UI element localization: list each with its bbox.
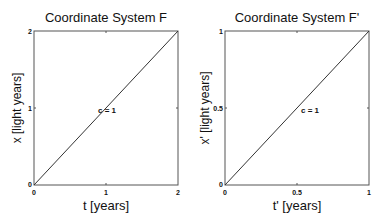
- figure: Coordinate System F c = 1 2 1 0 0 1 2 t …: [0, 0, 382, 224]
- plot-left-annotation: c = 1: [98, 106, 117, 115]
- y-tick-label: 0: [28, 181, 32, 188]
- plot-right-title: Coordinate System F': [235, 10, 360, 25]
- x-tick-label: 0: [32, 189, 36, 196]
- x-tick-label: 2: [176, 189, 180, 196]
- plot-right-xlabel: t' [years]: [273, 198, 322, 213]
- x-tick-label: 1: [367, 189, 371, 196]
- plot-left: Coordinate System F c = 1 2 1 0 0 1 2 t …: [10, 10, 180, 213]
- plot-right: Coordinate System F' c = 1 1 0.5 0 0 0.5…: [198, 10, 371, 213]
- y-tick-label: 2: [28, 28, 32, 35]
- plot-left-ylabel: x [light years]: [10, 73, 24, 144]
- x-tick-label: 0.5: [292, 189, 302, 196]
- plot-right-annotation: c = 1: [301, 106, 320, 115]
- y-tick-label: 1: [219, 28, 223, 35]
- x-tick-label: 1: [104, 189, 108, 196]
- plot-left-title: Coordinate System F: [45, 10, 167, 25]
- plot-right-ylabel: x' [light years]: [198, 72, 212, 145]
- y-tick-label: 0.5: [213, 105, 223, 112]
- y-tick-label: 1: [28, 105, 32, 112]
- plot-right-light-line: [225, 31, 369, 185]
- y-tick-label: 0: [219, 181, 223, 188]
- plot-left-xlabel: t [years]: [83, 198, 129, 213]
- x-tick-label: 0: [223, 189, 227, 196]
